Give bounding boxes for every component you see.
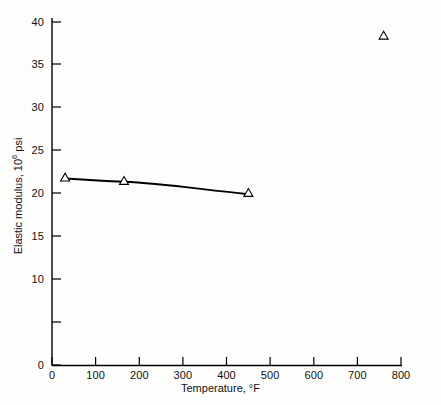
data-marker xyxy=(61,173,70,181)
x-tick-label-800: 800 xyxy=(392,369,411,381)
x-tick-marks xyxy=(52,357,401,366)
y-tick-marks xyxy=(52,22,61,365)
chart-plot-area xyxy=(0,0,441,405)
data-curve xyxy=(65,178,248,194)
data-marker-group xyxy=(61,31,389,196)
y-axis-title-prefix: Elastic modulus, 10 xyxy=(12,159,24,254)
data-marker-outlier xyxy=(379,31,388,39)
x-tick-label-100: 100 xyxy=(86,369,105,381)
y-tick-label-35: 35 xyxy=(8,58,44,70)
x-tick-label-0: 0 xyxy=(49,369,55,381)
x-axis-title: Temperature, °F xyxy=(0,382,441,394)
data-marker xyxy=(244,189,253,197)
x-tick-label-400: 400 xyxy=(217,369,236,381)
x-tick-label-600: 600 xyxy=(304,369,323,381)
x-tick-label-200: 200 xyxy=(130,369,149,381)
chart-figure: 40 35 30 25 20 15 10 0 0 100 200 300 400… xyxy=(0,0,441,405)
x-tick-label-700: 700 xyxy=(348,369,367,381)
x-tick-label-500: 500 xyxy=(261,369,280,381)
data-marker xyxy=(120,177,129,185)
y-axis-title-suffix: psi xyxy=(12,138,24,155)
x-tick-label-300: 300 xyxy=(174,369,193,381)
y-axis-title: Elastic modulus, 106 psi xyxy=(12,96,24,296)
y-tick-label-0: 0 xyxy=(8,359,44,371)
y-axis-title-exponent: 6 xyxy=(10,155,19,159)
y-tick-label-40: 40 xyxy=(8,16,44,28)
